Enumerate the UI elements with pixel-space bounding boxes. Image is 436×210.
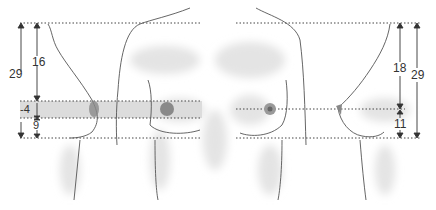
label-left-total: 29 <box>9 68 22 80</box>
label-right-lower: 11 <box>394 118 406 130</box>
nipple-band <box>20 101 202 118</box>
nipple-left-front <box>160 102 174 116</box>
diagram-canvas <box>0 0 436 210</box>
label-left-lower: 9 <box>33 120 39 131</box>
label-right-total: 29 <box>411 69 424 81</box>
label-right-upper: 18 <box>393 62 406 74</box>
nipple-left-profile <box>89 101 99 117</box>
label-left-upper: 16 <box>32 56 45 68</box>
label-left-offset: -4 <box>20 104 30 115</box>
